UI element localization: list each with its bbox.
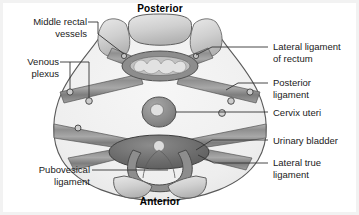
orientation-label-posterior: Posterior — [129, 3, 191, 14]
rectum — [122, 51, 198, 81]
label-cervix-uteri: Cervix uteri — [273, 107, 353, 119]
anatomy-diagram-page: Posterior Anterior Middle rectal vessels… — [0, 0, 359, 215]
label-lateral-true-ligament: Lateral true ligament — [273, 157, 353, 180]
label-venous-plexus: Venous plexus — [4, 56, 59, 79]
label-posterior-ligament: Posterior ligament — [273, 77, 353, 100]
sacrum — [128, 14, 191, 45]
orientation-label-anterior: Anterior — [130, 196, 190, 207]
label-middle-rectal-vessels: Middle rectal vessels — [4, 16, 87, 39]
urinary-bladder — [109, 135, 209, 169]
label-pubovesical-ligament: Pubovesical ligament — [4, 164, 90, 187]
cervix-uteri — [142, 97, 176, 127]
label-lateral-ligament-of-rectum: Lateral ligament of rectum — [273, 41, 359, 64]
label-urinary-bladder: Urinary bladder — [273, 135, 359, 147]
